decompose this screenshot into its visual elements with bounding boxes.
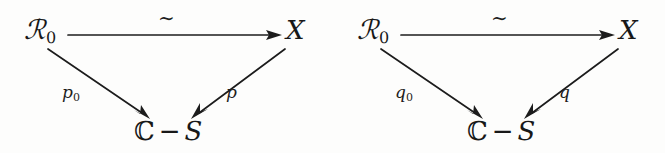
- node-base-s-symbol: S: [185, 117, 203, 147]
- left-leg-label-base: q: [395, 82, 406, 102]
- left-leg-shaft: [381, 49, 475, 113]
- node-source-r0: ℛ0: [24, 17, 56, 46]
- commutative-diagram-left: ℛ0 X ℂ−S ∼ p0 p: [0, 0, 332, 153]
- right-leg-label: p: [226, 84, 237, 103]
- commutative-diagram-right: ℛ0 X ℂ−S ∼ q0 q: [333, 0, 665, 153]
- left-leg-label: q0: [395, 84, 413, 103]
- left-leg-label-subscript: 0: [73, 91, 80, 104]
- node-target-x: X: [286, 18, 305, 44]
- node-target-x: X: [619, 18, 638, 44]
- node-base-minus-operator: −: [492, 117, 514, 147]
- left-leg-label-subscript: 0: [406, 91, 413, 104]
- right-leg-label-base: q: [559, 82, 570, 102]
- left-leg-label: p0: [62, 84, 80, 103]
- right-leg-label: q: [559, 84, 570, 103]
- left-leg-shaft: [48, 49, 142, 113]
- node-base-complex-symbol: ℂ: [134, 117, 155, 147]
- node-base-complex-symbol: ℂ: [467, 117, 488, 147]
- node-base-space: ℂ−S: [134, 119, 202, 145]
- right-leg-label-base: p: [226, 82, 237, 102]
- top-arrow-label: ∼: [158, 8, 175, 28]
- node-source-symbol: ℛ: [24, 15, 46, 46]
- node-base-minus-operator: −: [159, 117, 181, 147]
- node-source-subscript: 0: [379, 28, 389, 47]
- node-base-space: ℂ−S: [467, 119, 535, 145]
- commutative-diagram-figure: ℛ0 X ℂ−S ∼ p0 p ℛ0 X ℂ−S ∼: [0, 0, 665, 153]
- node-source-subscript: 0: [46, 28, 56, 47]
- right-leg-shaft: [532, 49, 618, 113]
- node-base-s-symbol: S: [518, 117, 536, 147]
- node-source-r0: ℛ0: [357, 17, 389, 46]
- node-source-symbol: ℛ: [357, 15, 379, 46]
- right-leg-shaft: [199, 49, 285, 113]
- left-leg-label-base: p: [62, 82, 73, 102]
- top-arrow-label: ∼: [491, 8, 508, 28]
